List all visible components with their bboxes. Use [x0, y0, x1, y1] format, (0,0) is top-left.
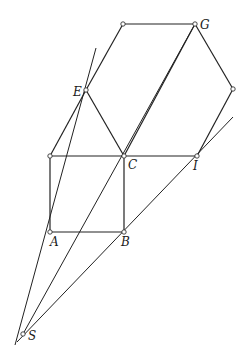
- segment-GH: [195, 24, 233, 89]
- label-I: I: [192, 159, 198, 173]
- point-I: [195, 154, 199, 158]
- point-S: [21, 332, 25, 336]
- segment-EF: [86, 24, 123, 90]
- label-S: S: [28, 329, 36, 343]
- label-C: C: [128, 158, 137, 172]
- ray-SG: [23, 24, 195, 334]
- segment-EC: [86, 90, 124, 156]
- label-B: B: [120, 235, 130, 249]
- ray-SE: [15, 48, 96, 345]
- point-D: [48, 154, 52, 158]
- point-H: [231, 87, 235, 91]
- label-E: E: [72, 85, 82, 99]
- point-B: [122, 230, 126, 234]
- point-E: [84, 88, 88, 92]
- point-F: [121, 22, 125, 26]
- geometry-diagram: A B C E G I S: [0, 0, 247, 364]
- segment-DE: [50, 90, 86, 156]
- point-G: [193, 22, 197, 26]
- point-A: [48, 230, 52, 234]
- label-A: A: [49, 235, 59, 249]
- label-G: G: [200, 18, 210, 32]
- point-C: [122, 154, 126, 158]
